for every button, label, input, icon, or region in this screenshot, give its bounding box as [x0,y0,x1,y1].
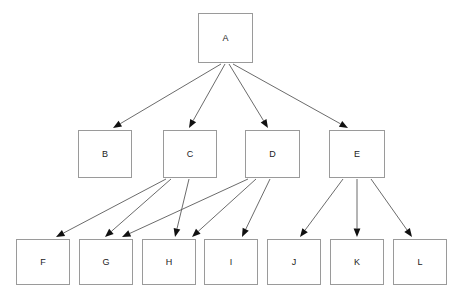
graph-node-label: I [230,258,233,267]
arrow-head-icon [261,119,268,128]
graph-node-label: E [354,150,360,159]
graph-node-j[interactable]: J [267,239,321,285]
arrow-head-icon [339,121,348,128]
graph-edge-a-to-b [113,64,221,128]
graph-edge-a-to-c [189,64,225,128]
arrow-head-icon [242,228,249,237]
arrow-head-icon [174,228,181,237]
graph-edge-a-to-e [233,64,348,128]
graph-node-label: F [40,258,46,267]
graph-node-k[interactable]: K [330,239,384,285]
graph-node-label: K [354,258,360,267]
graph-node-g[interactable]: G [79,239,133,285]
arrow-head-icon [122,230,131,237]
edge-line [111,179,171,231]
graph-node-label: D [269,150,276,159]
graph-node-f[interactable]: F [16,239,70,285]
arrow-head-icon [300,228,308,237]
graph-node-label: L [417,258,422,267]
edge-line [305,179,343,230]
graph-node-b[interactable]: B [78,130,132,178]
arrow-head-icon [113,121,122,128]
edge-line [177,179,189,229]
graph-node-label: A [222,34,228,43]
graph-node-d[interactable]: D [245,130,300,178]
graph-node-l[interactable]: L [393,239,447,285]
graph-node-label: C [187,150,194,159]
edge-line [371,179,407,230]
edge-line [130,179,248,233]
edge-line [233,64,341,124]
edge-line [198,179,256,231]
graph-node-c[interactable]: C [163,130,217,178]
graph-node-label: G [102,258,109,267]
graph-node-h[interactable]: H [142,239,196,285]
edge-line [64,179,166,233]
graph-edge-c-to-f [56,179,166,237]
graph-node-i[interactable]: I [204,239,258,285]
edge-line [120,64,221,124]
edge-line [229,64,264,121]
graph-edge-a-to-d [229,64,268,128]
graph-edge-d-to-g [122,179,248,237]
arrow-head-icon [56,230,65,237]
arrow-head-icon [404,228,412,237]
graph-edge-e-to-k [354,179,361,237]
graph-edge-c-to-h [174,179,189,237]
arrow-head-icon [189,119,196,128]
diagram-canvas: ABCDEFGHIJKL [0,0,460,302]
graph-node-label: B [102,150,108,159]
graph-node-label: J [292,258,297,267]
graph-node-e[interactable]: E [329,130,385,178]
graph-edge-c-to-g [105,179,171,237]
edge-line [246,179,270,229]
graph-node-label: H [166,258,173,267]
edge-line [193,64,225,121]
graph-edge-e-to-j [300,179,343,237]
graph-node-a[interactable]: A [198,13,253,63]
graph-edge-e-to-l [371,179,412,237]
arrow-head-icon [354,229,361,238]
